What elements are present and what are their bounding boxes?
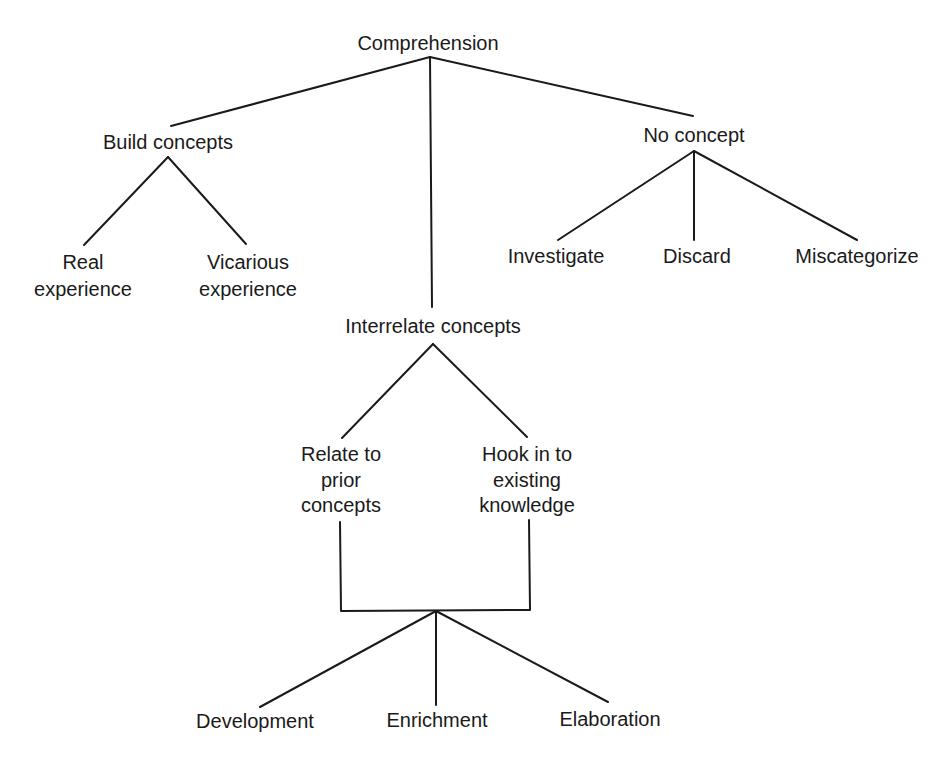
edge-merge-bracket [340,520,530,611]
node-relate-line1: Relate to [301,443,381,465]
edge-noconcept-investigate [558,151,694,240]
node-vicarious-experience-line1: Vicarious [207,251,289,273]
node-investigate: Investigate [508,245,605,267]
node-build-concepts: Build concepts [103,131,233,153]
node-relate-line2: prior [321,469,361,491]
edge-interrelate-relate [342,344,433,438]
node-miscategorize: Miscategorize [795,245,918,267]
edge-build-real [84,157,168,245]
node-elaboration: Elaboration [559,708,660,730]
edge-build-vicarious [168,157,246,244]
node-no-concept: No concept [643,124,745,146]
node-real-experience-line2: experience [34,278,132,300]
edges [84,57,857,707]
node-enrichment: Enrichment [386,709,488,731]
node-real-experience-line1: Real [62,251,103,273]
node-hook-line1: Hook in to [482,443,572,465]
node-comprehension: Comprehension [357,32,498,54]
edge-root-noconcept [430,57,693,116]
node-relate-line3: concepts [301,494,381,516]
labels: Comprehension Build concepts Real experi… [34,32,919,732]
edge-noconcept-miscategorize [694,151,857,240]
node-vicarious-experience-line2: experience [199,278,297,300]
edge-root-interrelate [430,57,432,307]
node-discard: Discard [663,245,731,267]
edge-merge-elaboration [436,611,608,702]
node-development: Development [196,710,314,732]
node-interrelate-concepts: Interrelate concepts [345,315,521,337]
edge-merge-development [260,611,436,707]
node-hook-line3: knowledge [479,494,575,516]
edge-interrelate-hook [433,344,527,437]
edge-root-build [171,57,430,126]
node-hook-line2: existing [493,469,561,491]
comprehension-tree-diagram: Comprehension Build concepts Real experi… [0,0,949,760]
